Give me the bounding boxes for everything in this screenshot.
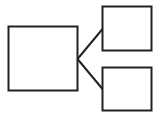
edge-root-to-bottom [78, 59, 103, 89]
child-top-node-box [103, 7, 152, 51]
tree-diagram [0, 0, 163, 119]
edge-root-to-top [78, 29, 103, 59]
child-bottom-node-box [103, 68, 152, 111]
root-node-box [9, 27, 78, 91]
